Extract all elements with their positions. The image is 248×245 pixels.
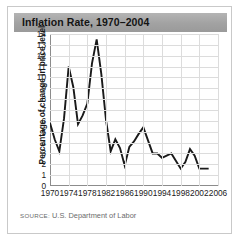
x-tick-label: 1998: [171, 188, 189, 198]
gridline-horizontal: [50, 45, 218, 46]
gridline-vertical: [162, 34, 163, 186]
y-tick-label: 2: [41, 159, 46, 169]
x-tick-label: 1990: [134, 188, 152, 198]
x-tick-label: 1970: [41, 188, 59, 198]
x-tick-label: 1978: [78, 188, 96, 198]
chart-plot-shell: Percentage of change in price level 0123…: [14, 34, 227, 206]
x-tick-label: 2006: [209, 188, 227, 198]
y-tick-label: 11: [37, 62, 46, 72]
y-tick-label: 3: [41, 148, 46, 158]
plot-area: [50, 34, 218, 186]
gridline-horizontal: [50, 164, 218, 165]
y-tick-label: 9: [41, 83, 46, 93]
gridline-horizontal: [50, 67, 218, 68]
gridline-vertical: [199, 34, 200, 186]
gridline-horizontal: [50, 143, 218, 144]
y-tick-label: 14: [37, 29, 46, 39]
source-note: SOURCE: U.S. Department of Labor: [20, 211, 136, 220]
x-tick-label: 1994: [153, 188, 171, 198]
y-tick-label: 12: [37, 51, 46, 61]
gridline-vertical: [218, 34, 219, 186]
gridline-vertical: [181, 34, 182, 186]
y-tick-label: 7: [41, 105, 46, 115]
y-tick-label: 6: [41, 116, 46, 126]
gridline-horizontal: [50, 175, 218, 176]
gridline-horizontal: [50, 121, 218, 122]
x-tick-label: 2002: [190, 188, 208, 198]
gridline-horizontal: [50, 153, 218, 154]
gridline-vertical: [69, 34, 70, 186]
y-tick-label: 10: [37, 72, 46, 82]
gridline-vertical: [125, 34, 126, 186]
x-tick-label: 1974: [59, 188, 77, 198]
source-label: SOURCE:: [20, 212, 50, 219]
gridline-vertical: [87, 34, 88, 186]
gridline-horizontal: [50, 99, 218, 100]
gridline-horizontal: [50, 34, 218, 35]
figure-card: Inflation Rate, 1970–2004 Percentage of …: [7, 6, 232, 234]
y-axis-tick-labels: 01234567891011121314: [28, 34, 46, 186]
y-tick-label: 5: [41, 127, 46, 137]
gridline-horizontal: [50, 132, 218, 133]
x-tick-label: 1982: [97, 188, 115, 198]
gridline-vertical: [106, 34, 107, 186]
gridline-horizontal: [50, 77, 218, 78]
y-tick-label: 8: [41, 94, 46, 104]
y-tick-label: 4: [41, 138, 46, 148]
y-tick-label: 13: [37, 40, 46, 50]
gridline-horizontal: [50, 56, 218, 57]
source-text: U.S. Department of Labor: [52, 211, 136, 220]
x-axis-tick-labels: 1970197419781982198619901994199820022006: [50, 188, 218, 202]
y-tick-label: 1: [41, 170, 46, 180]
gridline-vertical: [143, 34, 144, 186]
gridline-horizontal: [50, 88, 218, 89]
gridline-horizontal: [50, 110, 218, 111]
x-tick-label: 1986: [115, 188, 133, 198]
